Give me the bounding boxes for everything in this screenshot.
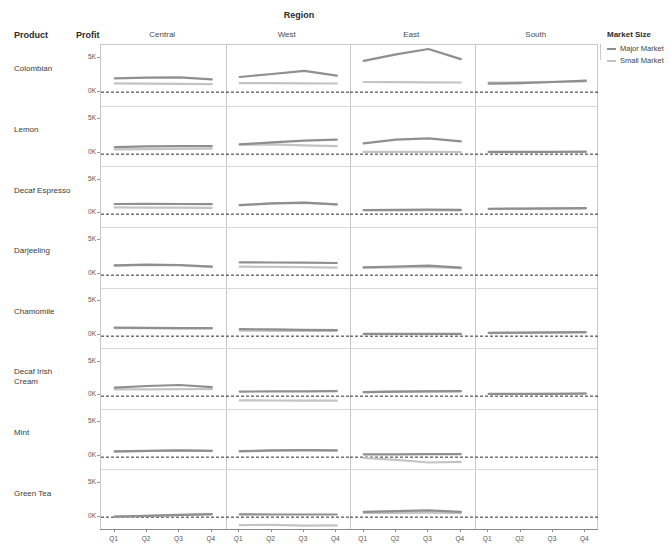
line-major-market[interactable] [239,139,336,144]
line-major-market[interactable] [239,71,336,77]
panel-decaf-irish-cream-east[interactable] [350,349,475,409]
y-tick-label: 0K [74,390,96,397]
panel-decaf-espresso-central[interactable] [101,167,226,227]
line-major-market[interactable] [115,77,212,79]
line-small-market[interactable] [364,458,461,463]
y-tick-label: 5K [74,175,96,182]
line-major-market[interactable] [115,450,212,451]
y-tick-label: 5K [74,417,96,424]
panel-decaf-espresso-south[interactable] [475,167,600,227]
x-tick-label-q2: Q2 [261,535,281,542]
product-label-green-tea: Green Tea [14,489,74,499]
product-label-darjeeling: Darjeeling [14,246,74,256]
panel-green-tea-east[interactable] [350,470,475,530]
legend-item-label: Major Market [620,44,664,53]
panel-colombian-east[interactable] [350,45,475,106]
panel-decaf-irish-cream-central[interactable] [101,349,226,409]
panel-decaf-espresso-east[interactable] [350,167,475,227]
line-major-market[interactable] [115,514,212,517]
panel-green-tea-south[interactable] [475,470,600,530]
panel-lemon-central[interactable] [101,107,226,167]
panel-chamomile-east[interactable] [350,289,475,349]
x-tick-label-q1: Q1 [104,535,124,542]
x-tick-mark [146,529,147,532]
product-label-colombian: Colombian [14,64,74,74]
product-label-chamomile: Chamomile [14,307,74,317]
panel-colombian-central[interactable] [101,45,226,106]
line-small-market[interactable] [239,525,336,526]
product-row-colombian [101,45,597,106]
panel-mint-east[interactable] [350,410,475,470]
product-row-chamomile [101,288,597,349]
x-tick-label-q4: Q4 [325,535,345,542]
panel-darjeeling-south[interactable] [475,228,600,288]
product-label-decaf-irish-cream: Decaf Irish Cream [14,367,74,387]
line-small-market[interactable] [115,148,212,149]
x-tick-mark [271,529,272,532]
line-major-market[interactable] [239,450,336,451]
x-tick-mark [211,529,212,532]
line-major-market[interactable] [364,138,461,143]
line-major-market[interactable] [239,329,336,330]
line-major-market[interactable] [115,146,212,147]
x-tick-mark [303,529,304,532]
panel-mint-west[interactable] [226,410,351,470]
line-major-market[interactable] [115,327,212,328]
region-title: Region [0,10,598,20]
x-tick-label-q2: Q2 [385,535,405,542]
panel-decaf-irish-cream-west[interactable] [226,349,351,409]
legend-items: Major MarketSmall Market [607,44,669,65]
panel-green-tea-west[interactable] [226,470,351,530]
x-tick-mark [520,529,521,532]
product-label-decaf-espresso: Decaf Espresso [14,186,74,196]
legend-title: Market Size [607,30,669,39]
panel-mint-south[interactable] [475,410,600,470]
line-small-market[interactable] [239,144,336,146]
panel-colombian-south[interactable] [475,45,600,106]
product-column-header: Product [14,30,48,40]
panel-chamomile-south[interactable] [475,289,600,349]
x-tick-label-q3: Q3 [417,535,437,542]
y-tick-label: 5K [74,357,96,364]
x-tick-mark [178,529,179,532]
trellis-plot-area [100,44,598,529]
line-major-market[interactable] [239,262,336,263]
line-major-market[interactable] [115,385,212,388]
panel-darjeeling-east[interactable] [350,228,475,288]
y-tick-label: 0K [74,330,96,337]
panel-lemon-east[interactable] [350,107,475,167]
line-major-market[interactable] [364,511,461,513]
line-major-market[interactable] [364,391,461,392]
panel-mint-central[interactable] [101,410,226,470]
x-tick-label-q2: Q2 [136,535,156,542]
y-tick-label: 0K [74,451,96,458]
y-tick-label: 5K [74,478,96,485]
panel-darjeeling-west[interactable] [226,228,351,288]
line-small-market[interactable] [239,267,336,268]
panel-colombian-west[interactable] [226,45,351,106]
line-major-market[interactable] [488,208,585,209]
x-tick-mark [427,529,428,532]
line-major-market[interactable] [488,332,585,333]
product-row-decaf-espresso [101,166,597,227]
panel-green-tea-central[interactable] [101,470,226,530]
panel-chamomile-west[interactable] [226,289,351,349]
legend-line-swatch [607,60,616,62]
panel-darjeeling-central[interactable] [101,228,226,288]
legend-item-major-market[interactable]: Major Market [607,44,669,53]
line-small-market[interactable] [364,82,461,83]
panel-lemon-west[interactable] [226,107,351,167]
x-axis-line [100,529,598,530]
x-tick-mark [363,529,364,532]
x-tick-mark [238,529,239,532]
y-tick-label: 5K [74,235,96,242]
panel-decaf-espresso-west[interactable] [226,167,351,227]
line-major-market[interactable] [364,49,461,61]
panel-decaf-irish-cream-south[interactable] [475,349,600,409]
line-small-market[interactable] [115,83,212,84]
panel-lemon-south[interactable] [475,107,600,167]
x-tick-label-q1: Q1 [353,535,373,542]
legend-item-small-market[interactable]: Small Market [607,56,669,65]
panel-chamomile-central[interactable] [101,289,226,349]
x-tick-label-q1: Q1 [477,535,497,542]
